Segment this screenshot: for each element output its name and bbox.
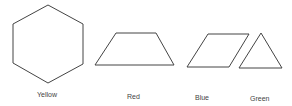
label-yellow: Yellow bbox=[37, 91, 57, 98]
triangle-shape bbox=[239, 33, 282, 68]
label-green: Green bbox=[250, 95, 269, 102]
label-red: Red bbox=[127, 93, 140, 100]
parallelogram-shape bbox=[187, 34, 249, 67]
trapezoid-shape bbox=[95, 33, 174, 65]
hexagon-shape bbox=[13, 5, 83, 83]
label-blue: Blue bbox=[195, 94, 209, 101]
